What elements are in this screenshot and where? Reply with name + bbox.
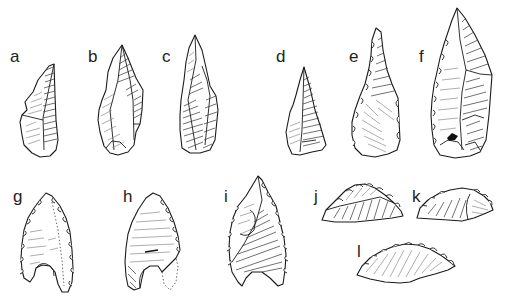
artefact-g-drawing: [20, 193, 74, 292]
artefact-i-drawing: [227, 176, 288, 286]
lithic-illustration-plate: a b c d e f g h i j k l: [0, 0, 508, 305]
artefact-b-drawing: [98, 45, 143, 155]
artefact-e-drawing: [352, 28, 400, 157]
artefact-d-drawing: [286, 67, 326, 155]
artefact-h-drawing: [125, 193, 180, 290]
artefact-l-drawing: [357, 243, 455, 284]
artefact-a-drawing: [20, 64, 58, 157]
artefact-c-drawing: [180, 35, 218, 153]
artefact-j-drawing: [322, 184, 403, 222]
artefact-k-drawing: [417, 188, 493, 221]
artefact-f-drawing: [431, 8, 492, 158]
